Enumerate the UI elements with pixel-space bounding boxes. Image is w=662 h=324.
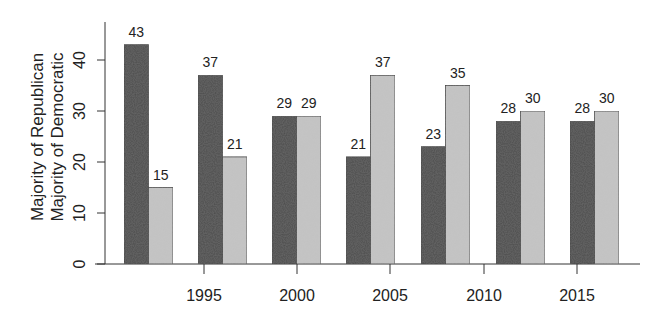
bar-value-label: 37: [202, 54, 218, 70]
bar-republican: [496, 121, 521, 264]
y-tick-label: 20: [71, 153, 88, 171]
bar-republican: [272, 116, 297, 264]
x-tick-label: 2000: [279, 287, 315, 304]
y-axis-title-line-2: Majority of Democratic: [48, 52, 67, 222]
bar-democratic: [297, 116, 322, 264]
bar-value-label: 29: [276, 95, 292, 111]
y-tick-label: 10: [71, 204, 88, 222]
x-axis: 19952000200520102015: [95, 264, 640, 304]
y-tick-label: 40: [71, 51, 88, 69]
x-tick-label: 1995: [186, 287, 222, 304]
bar-democratic: [223, 157, 248, 264]
bars: [124, 45, 619, 264]
y-tick-label: 0: [71, 259, 88, 268]
bar-republican: [421, 147, 446, 264]
bar-value-label: 43: [128, 24, 144, 40]
bar-democratic: [446, 86, 471, 265]
bar-republican: [346, 157, 371, 264]
bar-value-label: 37: [375, 54, 391, 70]
bar-republican: [570, 121, 595, 264]
x-tick-label: 2005: [372, 287, 408, 304]
bar-democratic: [595, 111, 620, 264]
bar-democratic: [521, 111, 546, 264]
bar-value-label: 29: [301, 95, 317, 111]
y-tick-label: 30: [71, 102, 88, 120]
bar-democratic: [149, 188, 174, 265]
bar-value-label: 21: [227, 136, 243, 152]
bar-value-label: 28: [574, 100, 590, 116]
x-tick-label: 2015: [559, 287, 595, 304]
y-axis: 010203040: [71, 22, 105, 268]
bar-value-label: 23: [425, 126, 441, 142]
bar-value-label: 30: [599, 90, 615, 106]
y-axis-title-line-1: Majority of Republican: [28, 53, 47, 221]
bar-value-label: 35: [450, 65, 466, 81]
y-axis-title: Majority of Republican Majority of Democ…: [28, 52, 67, 222]
bar-republican: [124, 45, 149, 264]
bar-value-label: 28: [500, 100, 516, 116]
x-tick-label: 2010: [466, 287, 502, 304]
bar-republican: [198, 75, 223, 264]
bar-value-label: 30: [525, 90, 541, 106]
bar-value-label: 15: [153, 167, 169, 183]
bar-value-label: 21: [350, 136, 366, 152]
bar-democratic: [371, 75, 396, 264]
bar-chart: Majority of Republican Majority of Democ…: [0, 0, 662, 324]
